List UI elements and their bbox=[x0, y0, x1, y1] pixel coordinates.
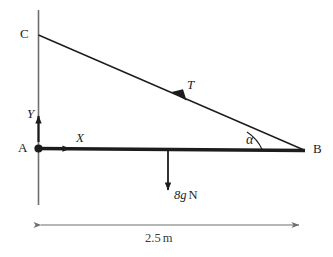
beam-ab bbox=[37, 149, 305, 151]
vertex-label-c: C bbox=[20, 27, 29, 40]
dimension-unit: m bbox=[163, 231, 173, 245]
tension-label: T bbox=[187, 78, 194, 91]
y-axis-label: Y bbox=[27, 107, 34, 120]
weight-label: 8gN bbox=[174, 189, 198, 202]
dimension-label: 2.5m bbox=[145, 232, 172, 245]
weight-value: 8g bbox=[174, 188, 187, 202]
vertex-label-b: B bbox=[313, 142, 322, 155]
tension-arrowhead bbox=[172, 89, 187, 100]
weight-unit: N bbox=[189, 188, 198, 202]
beam-string-diagram: C A B Y X T α 8gN 2.5m bbox=[0, 0, 333, 257]
diagram-canvas bbox=[0, 0, 333, 257]
vertex-label-a: A bbox=[18, 141, 27, 154]
x-axis-label: X bbox=[76, 131, 84, 144]
angle-label-alpha: α bbox=[246, 133, 253, 147]
dimension-value: 2.5 bbox=[145, 231, 161, 245]
